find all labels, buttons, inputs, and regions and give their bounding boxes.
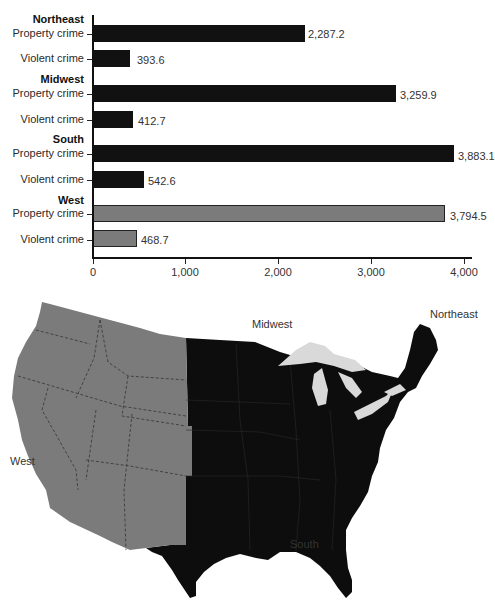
crime-bar-chart: Northeast Property crime Violent crime M… bbox=[0, 0, 494, 280]
us-regions-map: West Midwest South Northeast bbox=[0, 280, 494, 603]
bar-northeast-property bbox=[93, 25, 305, 42]
map-region-west bbox=[12, 302, 192, 550]
map-label-midwest: Midwest bbox=[252, 318, 292, 330]
bar-value: 2,287.2 bbox=[308, 28, 345, 40]
x-tick bbox=[464, 259, 465, 264]
category-label: Property crime bbox=[12, 207, 84, 220]
category-label: Violent crime bbox=[21, 113, 84, 126]
x-tick-label: 3,000 bbox=[357, 266, 385, 278]
us-map-svg bbox=[0, 280, 494, 603]
map-label-south: South bbox=[290, 538, 319, 550]
x-tick-label: 0 bbox=[90, 266, 96, 278]
bar-value: 542.6 bbox=[148, 175, 176, 187]
x-tick-label: 2,000 bbox=[264, 266, 292, 278]
bar-midwest-property bbox=[93, 85, 396, 102]
x-tick bbox=[371, 259, 372, 264]
x-tick-label: 1,000 bbox=[171, 266, 199, 278]
x-axis bbox=[92, 257, 472, 259]
bar-value: 3,883.1 bbox=[458, 150, 495, 162]
x-tick bbox=[93, 259, 94, 264]
category-label: Violent crime bbox=[21, 233, 84, 246]
bar-midwest-violent bbox=[93, 111, 133, 128]
region-label-south: South bbox=[53, 133, 84, 146]
region-label-west: West bbox=[58, 194, 84, 207]
bar-value: 393.6 bbox=[137, 54, 165, 66]
map-label-west: West bbox=[10, 455, 35, 467]
category-label: Violent crime bbox=[21, 52, 84, 65]
x-tick-label: 4,000 bbox=[450, 266, 478, 278]
x-tick bbox=[278, 259, 279, 264]
bar-value: 3,259.9 bbox=[400, 89, 437, 101]
bar-value: 468.7 bbox=[141, 234, 169, 246]
map-label-northeast: Northeast bbox=[430, 308, 478, 320]
bar-south-violent bbox=[93, 171, 144, 188]
category-label: Property crime bbox=[12, 27, 84, 40]
bar-west-violent bbox=[93, 230, 137, 247]
x-tick bbox=[185, 259, 186, 264]
category-label: Property crime bbox=[12, 147, 84, 160]
category-label: Violent crime bbox=[21, 173, 84, 186]
bar-value: 412.7 bbox=[138, 115, 166, 127]
category-label: Property crime bbox=[12, 87, 84, 100]
region-label-midwest: Midwest bbox=[41, 73, 84, 86]
region-label-northeast: Northeast bbox=[33, 13, 84, 26]
bar-west-property bbox=[93, 205, 445, 222]
y-axis bbox=[92, 15, 94, 259]
bar-value: 3,794.5 bbox=[450, 210, 487, 222]
bar-northeast-violent bbox=[93, 50, 130, 67]
bar-south-property bbox=[93, 145, 454, 162]
